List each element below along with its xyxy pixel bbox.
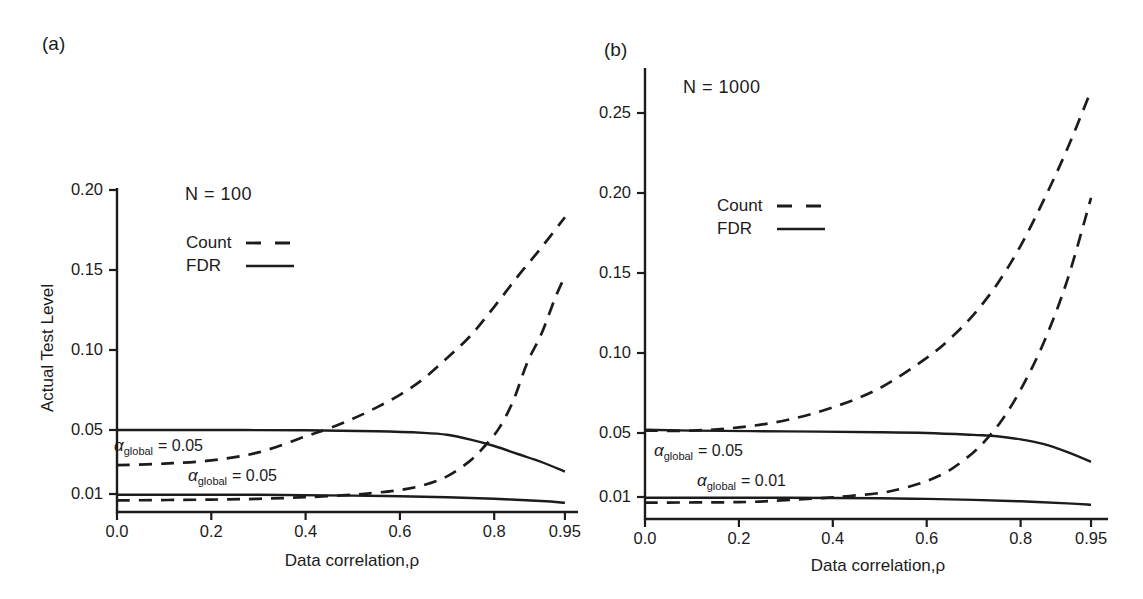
y-tick-label: 0.20 [575, 183, 631, 202]
y-tick-label: 0.10 [47, 340, 103, 359]
legend-count-label: Count [717, 196, 775, 216]
panel-a-label: (a) [42, 33, 65, 55]
alpha-value: = 0.05 [158, 437, 203, 454]
alpha-subscript: global [124, 445, 153, 457]
figure: (a) (b) N = 100 N = 1000 Count FDR Count… [0, 0, 1143, 599]
panel-b-x-axis-title: Data correlation,ρ [811, 556, 945, 576]
y-tick-label: 0.01 [575, 487, 631, 506]
x-tick-label: 0.2 [709, 529, 769, 548]
panel-b-label: (b) [604, 39, 627, 61]
series-1-0-dashed [645, 91, 1091, 431]
x-tick-label: 0.95 [1061, 529, 1121, 548]
y-tick-label: 0.15 [575, 263, 631, 282]
x-tick-label: 0.0 [615, 529, 675, 548]
panel-b-alpha-annotation-upper: αglobal= 0.05 [654, 441, 743, 461]
x-tick-label: 0.0 [87, 522, 147, 541]
series-0-2-dashed [117, 276, 565, 500]
y-tick-label: 0.15 [47, 260, 103, 279]
y-tick-label: 0.01 [47, 484, 103, 503]
alpha-value: = 0.05 [698, 442, 743, 459]
legend-count-label: Count [186, 233, 244, 253]
chart-canvas [0, 0, 1143, 599]
x-tick-label: 0.4 [276, 522, 336, 541]
x-tick-label: 0.95 [535, 522, 595, 541]
alpha-symbol: α [697, 471, 707, 490]
y-tick-label: 0.20 [47, 180, 103, 199]
dashed-line-swatch [775, 202, 827, 210]
alpha-value: = 0.05 [232, 467, 277, 484]
alpha-subscript: global [198, 475, 227, 487]
panel-a-x-axis-title: Data correlation,ρ [285, 551, 419, 571]
alpha-symbol: α [654, 441, 664, 460]
y-tick-label: 0.25 [575, 103, 631, 122]
legend-row-fdr: FDR [186, 254, 296, 277]
y-tick-label: 0.10 [575, 343, 631, 362]
panel-a-alpha-annotation-lower: αglobal= 0.05 [188, 466, 277, 486]
panel-a-legend: Count FDR [186, 231, 296, 277]
y-tick-label: 0.05 [575, 423, 631, 442]
dashed-line-swatch [244, 239, 296, 247]
x-tick-label: 0.6 [370, 522, 430, 541]
x-tick-label: 0.6 [897, 529, 957, 548]
y-tick-label: 0.05 [47, 420, 103, 439]
legend-row-fdr: FDR [717, 217, 827, 240]
legend-row-count: Count [717, 194, 827, 217]
x-tick-label: 0.8 [464, 522, 524, 541]
panel-b-legend: Count FDR [717, 194, 827, 240]
x-tick-label: 0.8 [991, 529, 1051, 548]
solid-line-swatch [244, 262, 296, 270]
alpha-subscript: global [707, 480, 736, 492]
alpha-symbol: α [114, 436, 124, 455]
alpha-value: = 0.01 [741, 472, 786, 489]
legend-fdr-label: FDR [717, 219, 775, 239]
panel-b-sample-size-label: N = 1000 [683, 77, 761, 98]
alpha-symbol: α [188, 466, 198, 485]
solid-line-swatch [775, 225, 827, 233]
legend-fdr-label: FDR [186, 256, 244, 276]
alpha-subscript: global [664, 450, 693, 462]
panel-a-sample-size-label: N = 100 [185, 184, 252, 205]
x-tick-label: 0.2 [181, 522, 241, 541]
panel-a-alpha-annotation-upper: αglobal= 0.05 [114, 436, 203, 456]
x-tick-label: 0.4 [803, 529, 863, 548]
legend-row-count: Count [186, 231, 296, 254]
panel-b-alpha-annotation-lower: αglobal= 0.01 [697, 471, 786, 491]
